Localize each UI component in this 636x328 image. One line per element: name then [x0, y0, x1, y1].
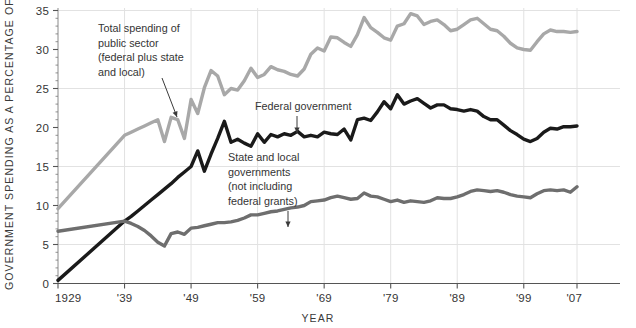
y-tick-label: 35 [36, 5, 49, 17]
x-tick-label: '07 [566, 292, 582, 304]
x-tick-label: '79 [383, 292, 399, 304]
annotation-text-line: State and local [228, 151, 299, 163]
annotation-text-line: (federal plus state [98, 51, 184, 63]
annotation-text-line: public sector [98, 37, 159, 49]
chart-container: 05101520253035 1929'39'49'59'69'79'89'99… [0, 0, 636, 328]
x-tick-label: '59 [250, 292, 266, 304]
y-tick-label: 0 [42, 278, 49, 290]
y-tick-label: 5 [42, 239, 49, 251]
x-axis-title: YEAR [302, 312, 335, 324]
y-axis-title: GOVERNMENT SPENDING AS A PERCENTAGE OF G… [3, 0, 15, 290]
x-tick-label: '89 [449, 292, 465, 304]
annotation-text-line: Total spending of [98, 22, 181, 34]
annotation-text-line: Federal government [255, 100, 352, 112]
annotation-text-line: governments [228, 166, 291, 178]
annotation-text-line: federal grants) [228, 195, 298, 207]
x-tick-label: 1929 [55, 292, 81, 304]
y-tick-label: 10 [36, 200, 49, 212]
x-tick-label: '49 [183, 292, 199, 304]
y-tick-label: 30 [36, 44, 49, 56]
government-spending-line-chart: 05101520253035 1929'39'49'59'69'79'89'99… [0, 0, 636, 328]
annotation-text-line: and local) [98, 66, 145, 78]
y-tick-label: 20 [36, 122, 49, 134]
y-tick-label: 15 [36, 161, 49, 173]
x-tick-label: '99 [516, 292, 532, 304]
x-tick-label: '39 [117, 292, 133, 304]
x-tick-label: '69 [316, 292, 332, 304]
annotation-text-line: (not including [228, 180, 292, 192]
y-tick-label: 25 [36, 83, 49, 95]
